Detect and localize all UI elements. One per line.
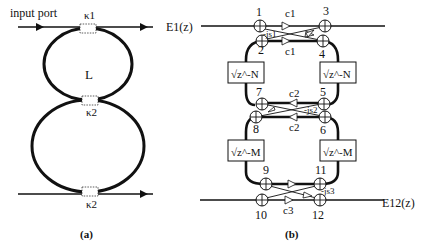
coef-c1-top: c1 <box>285 7 295 19</box>
coef-c1-bottom: c1 <box>285 45 295 57</box>
output-field-label: E12(z) <box>382 196 415 210</box>
coupler-label-k2-middle: κ2 <box>86 106 97 118</box>
summing-node-9 <box>260 178 272 190</box>
summing-node-4 <box>317 35 329 47</box>
arrow-right-icon <box>282 22 290 30</box>
coupler-box-middle <box>82 96 98 105</box>
node-label-6: 6 <box>320 123 326 137</box>
delay-box-lower-right: √z^-M <box>320 140 356 161</box>
coupler-label-k1: κ1 <box>84 9 95 21</box>
node-label-3: 3 <box>323 4 329 18</box>
coupler-box-top <box>80 24 96 33</box>
arrow-right-icon <box>282 37 290 45</box>
node-label-7: 7 <box>256 85 262 99</box>
arrow-right-icon <box>285 196 293 204</box>
node-label-8: 8 <box>253 122 259 136</box>
coef-s3: -js3 <box>321 186 335 196</box>
coef-c2-bottom: c2 <box>289 121 299 133</box>
arrow-left-icon <box>289 113 297 121</box>
ring-length-label: L <box>85 67 93 82</box>
summing-node-5 <box>318 98 330 110</box>
arrow-right-icon <box>140 190 148 198</box>
input-field-label: E1(z) <box>166 20 193 34</box>
svg-text:√z^-M: √z^-M <box>231 146 261 158</box>
figure: input port L κ1 κ2 κ2 (a) E1(z) E12(z) <box>0 0 429 246</box>
node-label-1: 1 <box>256 5 262 19</box>
coef-c2-top: c2 <box>289 87 299 99</box>
arrow-right-icon <box>303 192 312 198</box>
coef-s1: -js1 <box>263 29 277 39</box>
coupler-box-bottom <box>82 187 98 196</box>
node-label-11: 11 <box>315 163 327 177</box>
node-label-9: 9 <box>263 163 269 177</box>
svg-text:√z^-N: √z^-N <box>231 68 259 80</box>
panel-b-caption: (b) <box>285 228 299 241</box>
svg-text:√z^-M: √z^-M <box>323 146 353 158</box>
panel-a: input port L κ1 κ2 κ2 (a) <box>10 6 153 241</box>
delay-box-lower-left: √z^-M <box>228 140 264 161</box>
input-port-label: input port <box>10 6 58 20</box>
delay-box-upper-left: √z^-N <box>228 62 264 83</box>
node-label-10: 10 <box>255 208 267 222</box>
delay-box-upper-right: √z^-N <box>320 62 356 83</box>
summing-node-6 <box>319 111 331 123</box>
panel-a-caption: (a) <box>80 228 93 241</box>
node-label-5: 5 <box>320 85 326 99</box>
arrow-left-icon <box>268 107 275 112</box>
ring-path-left-lower <box>246 83 255 105</box>
node-label-12: 12 <box>312 208 324 222</box>
summing-node-10 <box>256 194 268 206</box>
summing-node-7 <box>256 98 268 110</box>
coef-c3: c3 <box>283 204 294 216</box>
arrow-right-icon <box>288 180 296 188</box>
upper-ring-resonator <box>44 28 132 100</box>
arrow-right-icon <box>140 23 148 31</box>
coupler-label-k2-bottom: κ2 <box>86 198 97 210</box>
arrow-left-icon <box>289 99 297 107</box>
node-label-4: 4 <box>319 47 325 61</box>
svg-text:√z^-N: √z^-N <box>323 68 351 80</box>
node-label-2: 2 <box>258 43 264 57</box>
arrow-right-icon <box>36 23 44 31</box>
coef-s2: -js2 <box>304 105 318 115</box>
panel-b: E1(z) E12(z) <box>166 4 415 241</box>
summing-node-3 <box>319 20 331 32</box>
